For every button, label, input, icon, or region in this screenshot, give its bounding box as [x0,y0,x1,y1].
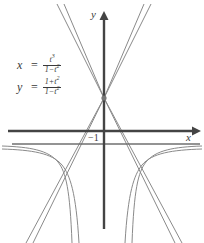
curve-upper-left-outer [57,4,104,98]
node-point-marker [101,95,106,100]
curve-descend-right-2 [104,98,175,243]
minus-one-label: −1 [88,132,99,143]
equation-x-equals: = [31,58,38,73]
curve-upper-right-inner [104,4,144,98]
curve-descend-left-2 [33,98,104,243]
y-axis-label: y [91,8,96,20]
equation-block: x = t3 1−t2 y = 1+t2 1−t2 [17,54,61,98]
curve-lower-right-branch [132,146,202,243]
equation-x-denominator: 1−t2 [43,66,62,74]
plot-canvas [0,0,204,243]
curve-upper-right-outer [104,4,151,98]
y-axis-arrowhead [100,11,109,20]
equation-x: x = t3 1−t2 [17,54,61,76]
curve-lower-left-branch-2 [2,149,79,243]
equation-y-denominator: 1−t2 [43,88,62,96]
x-axis-label: x [186,131,191,143]
equation-y-variable: y [17,80,29,95]
curve-upper-left-inner [64,4,104,98]
equation-y-equals: = [31,80,38,95]
curve-group [2,4,202,243]
equation-x-fraction: t3 1−t2 [43,56,62,74]
curve-descend-right [104,98,182,243]
parametric-curve-figure: y x −1 x = t3 1−t2 y = 1+t2 1−t2 [0,0,204,243]
curve-lower-right-branch-2 [125,149,202,243]
equation-y: y = 1+t2 1−t2 [17,76,61,98]
curve-descend-left [26,98,104,243]
equation-x-variable: x [17,58,29,73]
equation-y-fraction: 1+t2 1−t2 [43,78,62,96]
x-axis-arrowhead [192,127,201,136]
curve-lower-left-branch [2,146,72,243]
